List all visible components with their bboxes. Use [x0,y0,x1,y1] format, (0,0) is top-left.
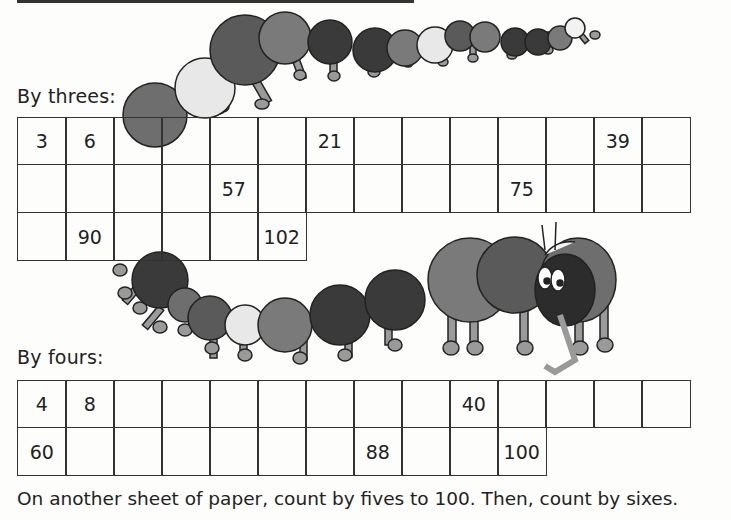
fours-cell[interactable] [545,380,595,428]
instruction-text: On another sheet of paper, count by five… [17,488,678,509]
fours-cell[interactable] [401,380,451,428]
fours-cell[interactable]: 8 [65,380,115,428]
threes-label: By threes: [17,85,116,107]
threes-cell[interactable]: 90 [65,213,115,261]
fours-cell[interactable] [113,428,163,476]
threes-cell[interactable] [257,165,307,213]
threes-row-2: 57 75 [17,165,691,213]
threes-cell[interactable] [65,165,115,213]
threes-cell[interactable] [449,117,499,165]
fours-cell[interactable] [209,380,259,428]
threes-cell[interactable] [257,117,307,165]
fours-cell[interactable]: 88 [353,428,403,476]
threes-row-3: 90 102 [17,213,307,261]
fours-cell[interactable]: 4 [17,380,67,428]
threes-cell[interactable]: 3 [17,117,67,165]
threes-cell[interactable] [113,117,163,165]
threes-cell[interactable] [161,213,211,261]
fours-label: By fours: [17,346,104,368]
threes-cell[interactable]: 6 [65,117,115,165]
threes-cell[interactable] [161,117,211,165]
threes-cell[interactable] [545,165,595,213]
fours-row-1: 4 8 40 [17,380,691,428]
threes-cell[interactable] [401,165,451,213]
threes-cell[interactable] [305,165,355,213]
fours-cell[interactable] [641,380,691,428]
fours-cell[interactable]: 60 [17,428,67,476]
threes-cell[interactable] [641,117,691,165]
threes-cell[interactable] [17,165,67,213]
fours-cell[interactable] [353,380,403,428]
fours-cell[interactable] [257,428,307,476]
fours-cell[interactable] [113,380,163,428]
threes-cell[interactable] [593,165,643,213]
threes-cell[interactable] [113,165,163,213]
threes-cell[interactable] [401,117,451,165]
threes-cell[interactable]: 21 [305,117,355,165]
fours-cell[interactable] [449,428,499,476]
threes-cell[interactable] [545,117,595,165]
fours-row-2: 60 88 100 [17,428,547,476]
top-rule [17,0,414,3]
fours-cell[interactable]: 40 [449,380,499,428]
fours-cell[interactable] [161,380,211,428]
threes-cell[interactable] [209,213,259,261]
fours-cell[interactable] [593,380,643,428]
threes-cell[interactable] [449,165,499,213]
threes-cell[interactable] [497,117,547,165]
fours-cell[interactable] [161,428,211,476]
threes-cell[interactable]: 57 [209,165,259,213]
threes-cell[interactable]: 102 [257,213,307,261]
threes-cell[interactable]: 39 [593,117,643,165]
fours-cell[interactable] [401,428,451,476]
threes-row-1: 3 6 21 39 [17,117,691,165]
threes-cell[interactable] [353,165,403,213]
threes-cell[interactable] [161,165,211,213]
fours-cell[interactable]: 100 [497,428,547,476]
fours-cell[interactable] [65,428,115,476]
threes-cell[interactable] [641,165,691,213]
threes-cell[interactable] [17,213,67,261]
threes-cell[interactable] [209,117,259,165]
fours-cell[interactable] [257,380,307,428]
fours-cell[interactable] [497,380,547,428]
threes-cell[interactable] [353,117,403,165]
fours-cell[interactable] [305,428,355,476]
fours-cell[interactable] [305,380,355,428]
threes-cell[interactable] [113,213,163,261]
threes-cell[interactable]: 75 [497,165,547,213]
fours-cell[interactable] [209,428,259,476]
